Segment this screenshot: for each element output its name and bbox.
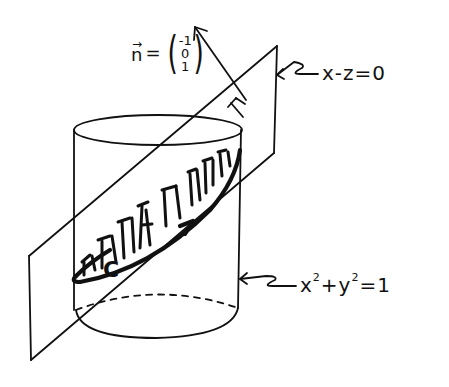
cyl-x-exp: 2 xyxy=(313,271,321,284)
cyl-y-exp: 2 xyxy=(351,271,359,284)
normal-column-vector: ( -1 0 1 ) xyxy=(164,31,207,75)
right-paren: ) xyxy=(193,31,203,75)
plane-equation-label: x-z=0 xyxy=(322,63,386,83)
cyl-plus: + xyxy=(321,273,339,297)
right-angle-mark xyxy=(228,98,245,117)
curve-c xyxy=(74,150,240,282)
equals-sign: = xyxy=(145,44,160,62)
normal-component-x: -1 xyxy=(179,34,192,47)
cyl-x: x xyxy=(300,273,313,297)
cylinder-label-leader xyxy=(240,273,296,286)
diagram-canvas xyxy=(0,0,449,387)
normal-component-z: 1 xyxy=(181,60,189,73)
cyl-y: y xyxy=(339,273,352,297)
cylinder-equation-label: x2+y2=1 xyxy=(300,275,391,295)
normal-vector-label: → n = ( -1 0 1 ) xyxy=(131,31,207,75)
curve-c-label: C xyxy=(103,259,119,281)
left-paren: ( xyxy=(167,31,177,75)
vector-arrow-symbol: → xyxy=(132,38,142,50)
normal-component-y: 0 xyxy=(181,47,189,60)
cyl-rhs: =1 xyxy=(359,273,390,297)
plane-label-leader xyxy=(277,62,318,79)
cylinder xyxy=(74,115,242,338)
